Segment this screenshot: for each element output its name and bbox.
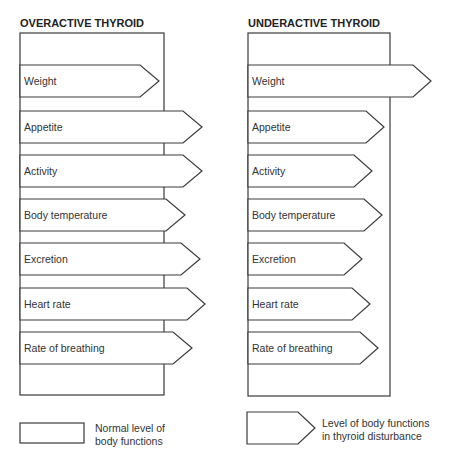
panel-title-underactive: UNDERACTIVE THYROID (248, 17, 380, 29)
arrow-label: Excretion (24, 253, 68, 265)
legend-arrow-swatch-icon (247, 412, 315, 444)
panel-overactive: OVERACTIVE THYROID WeightAppetiteActivit… (20, 17, 205, 395)
arrow-label: Appetite (24, 121, 63, 133)
arrow-appetite: Appetite (20, 111, 202, 143)
legend-normal-swatch-icon (20, 423, 84, 443)
arrow-label: Activity (252, 165, 286, 177)
arrow-weight: Weight (20, 65, 159, 97)
arrow-body-temperature: Body temperature (248, 199, 382, 231)
arrow-heart-rate: Heart rate (248, 288, 370, 320)
arrow-activity: Activity (248, 155, 372, 187)
arrow-rate-of-breathing: Rate of breathing (248, 332, 378, 364)
legend-normal-line2: body functions (95, 435, 163, 447)
arrow-label: Activity (24, 165, 58, 177)
arrow-label: Body temperature (252, 209, 336, 221)
arrow-rate-of-breathing: Rate of breathing (20, 332, 192, 364)
arrow-label: Rate of breathing (252, 342, 333, 354)
legend-disturbed-line2: in thyroid disturbance (322, 430, 422, 442)
legend-normal-line1: Normal level of (95, 422, 165, 434)
arrow-label: Body temperature (24, 209, 108, 221)
arrow-label: Heart rate (252, 298, 299, 310)
arrow-label: Heart rate (24, 298, 71, 310)
arrow-label: Rate of breathing (24, 342, 105, 354)
arrow-heart-rate: Heart rate (20, 288, 205, 320)
arrow-activity: Activity (20, 155, 202, 187)
thyroid-diagram: OVERACTIVE THYROID WeightAppetiteActivit… (0, 0, 449, 457)
arrow-weight: Weight (248, 65, 431, 97)
arrow-label: Appetite (252, 121, 291, 133)
arrow-label: Excretion (252, 253, 296, 265)
arrow-label: Weight (252, 75, 285, 87)
panel-underactive: UNDERACTIVE THYROID WeightAppetiteActivi… (248, 17, 431, 396)
arrow-appetite: Appetite (248, 111, 384, 143)
panel-title-overactive: OVERACTIVE THYROID (20, 17, 144, 29)
legend: Normal level of body functions Level of … (20, 412, 429, 447)
arrow-label: Weight (24, 75, 57, 87)
legend-disturbed-line1: Level of body functions (322, 417, 429, 429)
arrow-excretion: Excretion (248, 243, 362, 275)
arrow-excretion: Excretion (20, 243, 200, 275)
arrow-body-temperature: Body temperature (20, 199, 185, 231)
